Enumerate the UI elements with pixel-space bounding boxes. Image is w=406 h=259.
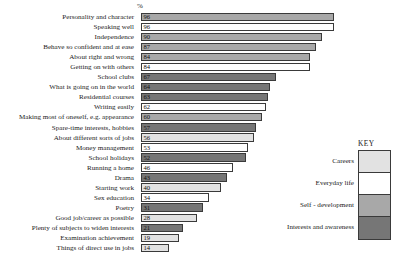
legend-item-label: Everyday life (238, 172, 354, 194)
legend-swatch (359, 151, 390, 173)
bar-value-label: 56 (144, 133, 151, 143)
bar-row: Making most of oneself, e.g. appearance6… (0, 112, 406, 122)
bar-category-label: Poetry (115, 203, 134, 213)
bar-row: Personality and character96 (0, 12, 406, 22)
bar (141, 153, 246, 161)
bar-category-label: Running a home (87, 163, 134, 173)
bar-value-label: 19 (144, 233, 151, 243)
bar (141, 113, 262, 121)
bar-row: Independence90 (0, 32, 406, 42)
bar (141, 73, 276, 81)
bar (141, 83, 270, 91)
bar-category-label: Examination achievement (60, 233, 134, 243)
bar-value-label: 64 (144, 82, 151, 92)
bar-value-label: 63 (144, 92, 151, 102)
bar (141, 143, 248, 151)
bar-category-label: Behave so confident and at ease (43, 42, 134, 52)
bar-value-label: 96 (144, 22, 151, 32)
bar-row: About different sorts of jobs56 (0, 133, 406, 143)
bar-category-label: Residential courses (79, 92, 134, 102)
bar-category-label: Writing easily (94, 102, 134, 112)
bar (141, 93, 268, 101)
bar-category-label: Drama (115, 173, 134, 183)
bar (141, 33, 322, 41)
bar-category-label: Sex education (94, 193, 134, 203)
bar-category-label: Making most of oneself, e.g. appearance (19, 112, 134, 122)
bar-value-label: 34 (144, 193, 151, 203)
bar-value-label: 52 (144, 153, 151, 163)
bar-row: Things of direct use in jobs14 (0, 243, 406, 253)
bar-value-label: 28 (144, 213, 151, 223)
bar (141, 173, 227, 181)
bar-value-label: 21 (144, 223, 151, 233)
bar (141, 183, 221, 191)
bar-category-label: About different sorts of jobs (54, 133, 134, 143)
bar-value-label: 84 (144, 52, 151, 62)
bar-row: What is going on in the world64 (0, 82, 406, 92)
bar-category-label: Things of direct use in jobs (57, 243, 134, 253)
legend-swatch (359, 217, 390, 239)
bar-chart: % Personality and character96Speaking we… (0, 0, 406, 259)
bar-value-label: 60 (144, 112, 151, 122)
bar-value-label: 53 (144, 143, 151, 153)
bar-row: Spare-time interests, hobbies57 (0, 123, 406, 133)
bar (141, 193, 209, 201)
bar-value-label: 67 (144, 72, 151, 82)
bar-category-label: Good job/career as possible (55, 213, 134, 223)
bar-row: Speaking well96 (0, 22, 406, 32)
bar-value-label: 84 (144, 62, 151, 72)
bar-category-label: Speaking well (94, 22, 134, 32)
legend-swatch (359, 195, 390, 217)
bar (141, 203, 203, 211)
bar-category-label: School clubs (98, 72, 134, 82)
percent-axis-label: % (137, 2, 143, 10)
bar-category-label: Personality and character (62, 12, 134, 22)
bar-category-label: Money management (76, 143, 134, 153)
bar (141, 133, 254, 141)
bar-value-label: 87 (144, 42, 151, 52)
legend-label-list: CareersEveryday lifeSelf - developmentIn… (238, 150, 354, 238)
bar-value-label: 31 (144, 203, 151, 213)
bar-category-label: Spare-time interests, hobbies (52, 123, 134, 133)
bar (141, 123, 256, 131)
legend-swatch (359, 173, 390, 195)
bar-value-label: 14 (144, 243, 151, 253)
legend-item-label: Careers (238, 150, 354, 172)
bar-value-label: 57 (144, 123, 151, 133)
bar (141, 43, 316, 51)
bar-row: School clubs67 (0, 72, 406, 82)
legend-item-label: Self - development (238, 194, 354, 216)
legend-swatch-list (358, 150, 391, 240)
bar (141, 23, 334, 31)
bar-value-label: 40 (144, 183, 151, 193)
bar-value-label: 43 (144, 173, 151, 183)
bar-row: About right and wrong84 (0, 52, 406, 62)
bar (141, 163, 233, 171)
bar (141, 13, 334, 21)
bar-value-label: 96 (144, 12, 151, 22)
bar (141, 103, 266, 111)
bar-category-label: What is going on in the world (49, 82, 134, 92)
bar-category-label: About right and wrong (69, 52, 134, 62)
bar-category-label: School holidays (88, 153, 134, 163)
bar-value-label: 62 (144, 102, 151, 112)
bar-value-label: 90 (144, 32, 151, 42)
bar-row: Behave so confident and at ease87 (0, 42, 406, 52)
bar-row: Writing easily62 (0, 102, 406, 112)
bar-category-label: Independence (95, 32, 134, 42)
bar-row: Residential courses63 (0, 92, 406, 102)
bar-row: Getting on with others84 (0, 62, 406, 72)
legend-title: KEY (358, 139, 374, 148)
bar (141, 53, 310, 61)
bar-category-label: Plenty of subjects to widen interests (32, 223, 134, 233)
bar-value-label: 46 (144, 163, 151, 173)
bar-category-label: Starting work (95, 183, 134, 193)
bar (141, 63, 310, 71)
legend-item-label: Interests and awareness (238, 216, 354, 238)
bar-category-label: Getting on with others (70, 62, 134, 72)
